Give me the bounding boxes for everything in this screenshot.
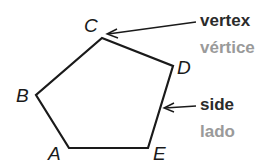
vertex-term-spanish: vértice [200, 39, 255, 56]
vertex-label-b: B [16, 86, 29, 105]
side-term-english: side [200, 96, 234, 113]
side-arrow-icon [164, 103, 196, 112]
pentagon-diagram: C D B A E vertex vértice side lado [0, 0, 276, 163]
vertex-label-e: E [153, 144, 166, 163]
vertex-arrow-icon [107, 22, 196, 38]
vertex-label-c: C [84, 16, 98, 35]
pentagon-outline [36, 38, 173, 148]
vertex-label-d: D [177, 58, 191, 77]
vertex-label-a: A [48, 144, 61, 163]
side-term-spanish: lado [200, 123, 235, 140]
vertex-term-english: vertex [200, 12, 250, 29]
